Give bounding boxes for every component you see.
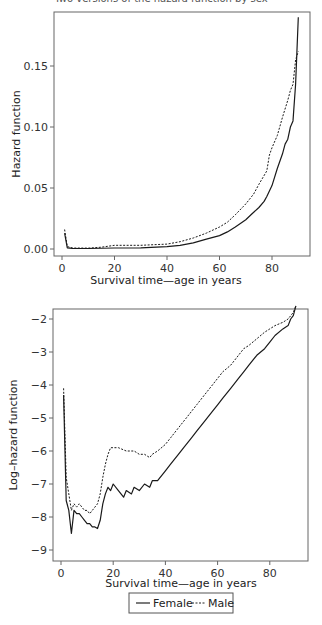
y-tick-label: −2 <box>31 313 47 326</box>
y-tick-label: −6 <box>31 445 47 458</box>
y-tick-label: −4 <box>31 379 47 392</box>
y-tick-label: −8 <box>31 511 47 524</box>
hazard-y-axis-title: Hazard function <box>10 90 23 177</box>
x-tick-label: 80 <box>265 262 279 275</box>
y-tick-label: 0.10 <box>24 121 49 134</box>
legend-female-label: Female <box>153 597 193 610</box>
cut-figure-title: Two versions of the hazard function by s… <box>53 0 267 4</box>
legend: Female Male <box>129 593 234 613</box>
log-hazard-y-ticks: −2−3−4−5−6−7−8−9 <box>31 313 53 557</box>
legend-male-label: Male <box>208 597 234 610</box>
hazard-x-ticks: 020406080 <box>59 256 280 275</box>
y-tick-label: −7 <box>31 478 47 491</box>
log-hazard-y-axis-title: Log–hazard function <box>7 379 20 490</box>
male-series-line <box>64 306 296 514</box>
y-tick-label: −9 <box>31 544 47 557</box>
hazard-x-axis-title: Survival time—age in years <box>90 274 242 287</box>
y-tick-label: 0.15 <box>24 60 49 73</box>
hazard-plot-frame <box>54 12 310 256</box>
log-hazard-x-axis-title: Survival time—age in years <box>105 577 257 590</box>
y-tick-label: −5 <box>31 412 47 425</box>
y-tick-label: −3 <box>31 346 47 359</box>
log-hazard-series <box>64 306 296 534</box>
x-tick-label: 0 <box>58 567 65 580</box>
log-hazard-plot-frame <box>53 309 308 561</box>
chart-figure: Two versions of the hazard function by s… <box>0 0 322 625</box>
female-series-line <box>65 17 299 248</box>
y-tick-label: 0.00 <box>24 243 49 256</box>
hazard-y-ticks: 0.000.050.100.15 <box>24 60 55 256</box>
x-tick-label: 80 <box>263 567 277 580</box>
y-tick-label: 0.05 <box>24 182 49 195</box>
female-series-line <box>64 306 296 534</box>
hazard-series <box>65 17 299 248</box>
x-tick-label: 0 <box>59 262 66 275</box>
male-series-line <box>65 51 299 248</box>
hazard-chart: 0.000.050.100.15 020406080 Hazard functi… <box>10 12 310 287</box>
log-hazard-chart: −2−3−4−5−6−7−8−9 020406080 Log–hazard fu… <box>7 306 308 590</box>
